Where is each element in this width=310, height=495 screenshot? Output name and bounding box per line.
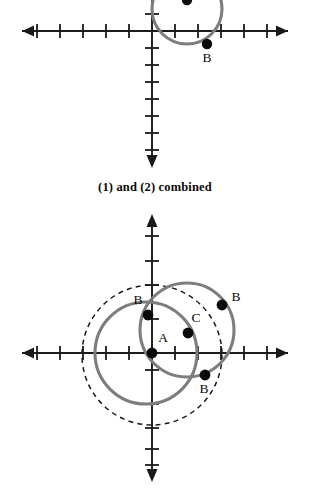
point-b-lower-dot xyxy=(202,39,212,49)
geometry-figure: B (1) and (2) combined xyxy=(0,0,310,495)
figure-caption: (1) and (2) combined xyxy=(0,179,310,195)
axes-bottom xyxy=(22,214,288,482)
x-axis-arrow-right-icon xyxy=(276,26,288,37)
point-b-lower-label: B xyxy=(202,50,211,65)
x-axis-arrow-left-icon xyxy=(22,348,34,359)
circle-1-solid xyxy=(152,0,222,44)
y-axis-arrow-up-icon xyxy=(147,214,158,227)
point-b-lower-right-label: B xyxy=(199,381,208,396)
points-top: B xyxy=(182,0,212,65)
point-a-origin-dot xyxy=(147,348,158,359)
x-axis-arrow-right-icon xyxy=(276,348,288,359)
point-b-upper-right-label: B xyxy=(231,289,240,304)
y-axis-arrow-down-icon xyxy=(147,155,158,168)
coordinate-plane-top: B xyxy=(0,0,310,175)
point-c-dot xyxy=(183,328,194,339)
point-a-label: A xyxy=(158,330,168,345)
y-axis-arrow-down-icon xyxy=(147,469,158,482)
point-b-upper-left-label: B xyxy=(133,292,142,307)
coordinate-plane-bottom: A B C B B xyxy=(0,200,310,495)
point-b-lower-right-dot xyxy=(200,370,211,381)
x-axis-arrow-left-icon xyxy=(22,26,34,37)
point-b-upper-left-dot xyxy=(143,310,154,321)
point-b-upper-right-dot xyxy=(217,300,228,311)
point-c-label: C xyxy=(191,310,200,325)
points-bottom: A B C B B xyxy=(133,289,240,396)
point-top-unlabeled-dot xyxy=(182,0,192,5)
